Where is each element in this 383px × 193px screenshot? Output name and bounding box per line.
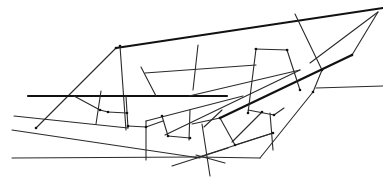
junction-node xyxy=(35,127,38,130)
junction-node xyxy=(126,112,129,115)
junction-node xyxy=(107,111,110,114)
segment-lower-right-long xyxy=(260,92,313,158)
junction-node xyxy=(219,117,222,120)
junction-node xyxy=(115,47,118,50)
segment-top-boundary xyxy=(116,8,383,48)
line-network-diagram xyxy=(0,0,383,193)
junction-node xyxy=(161,115,164,118)
junction-node xyxy=(272,132,275,135)
junction-node xyxy=(167,135,170,138)
segment-mid-link-a xyxy=(128,126,146,127)
junction-node xyxy=(255,48,258,51)
segments-layer xyxy=(12,8,383,176)
junction-node xyxy=(119,45,122,48)
segment-left-vertical-a xyxy=(120,46,126,130)
segment-inner-diagonal-a xyxy=(141,67,156,96)
junction-node xyxy=(261,111,264,114)
segment-right-cluster-g xyxy=(274,108,284,115)
junction-node xyxy=(127,125,130,128)
junction-node xyxy=(234,144,237,147)
segment-left-diagonal xyxy=(36,48,116,128)
junction-node xyxy=(351,54,354,57)
junction-node xyxy=(99,109,102,112)
segment-mid-vertical-right xyxy=(295,14,322,70)
junction-node xyxy=(273,114,276,117)
junction-node xyxy=(321,69,324,72)
junction-node xyxy=(312,91,315,94)
segment-inner-horizontal-b xyxy=(255,49,288,50)
junction-node xyxy=(247,112,250,115)
segment-inner-horizontal-a xyxy=(145,65,256,73)
segment-top-right-diagonal-a xyxy=(352,12,378,55)
segment-inner-diagonal-b xyxy=(165,70,300,135)
segment-bottom-horizontal xyxy=(12,157,196,158)
segment-left-short-a xyxy=(74,96,100,110)
segment-right-cluster-a xyxy=(192,118,220,124)
junction-node xyxy=(145,126,148,129)
segment-left-lower-a xyxy=(14,116,128,128)
segment-right-horizontal xyxy=(316,86,383,88)
segment-right-boundary-thick xyxy=(220,55,352,118)
segment-left-short-c xyxy=(108,112,127,113)
segment-mid-vertical-b xyxy=(189,110,190,140)
segment-bottom-vertical xyxy=(202,124,210,176)
segment-mid-link-b xyxy=(146,121,163,127)
segment-inner-diagonal-c xyxy=(189,70,300,96)
segment-mid-diag-short xyxy=(162,116,168,136)
segment-mid-upward xyxy=(146,96,243,121)
junction-node xyxy=(299,89,302,92)
junction-node xyxy=(189,137,192,140)
junction-node xyxy=(286,49,289,52)
segment-lower-diagonal xyxy=(12,130,200,158)
segment-inner-vertical-b xyxy=(193,45,198,90)
segment-mid-horizontal-short xyxy=(168,136,190,138)
segment-top-right-diagonal-b xyxy=(310,12,378,63)
